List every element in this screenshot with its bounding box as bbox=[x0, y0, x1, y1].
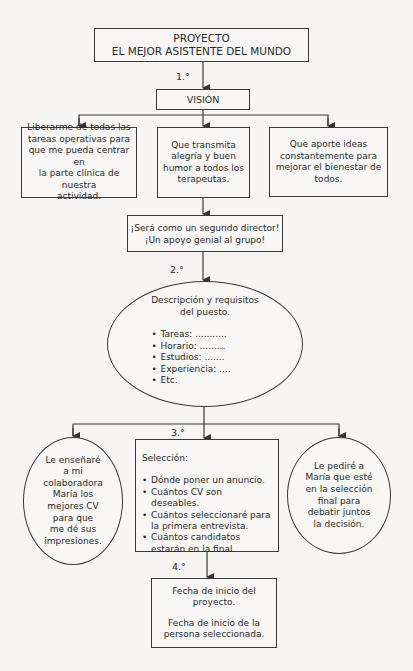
vision-label: VISIÓN bbox=[187, 94, 220, 106]
vision-item-2: Que transmita alegría y buen humor a tod… bbox=[157, 127, 250, 198]
right-circle: Le pediré a María que esté en la selecci… bbox=[287, 437, 391, 554]
requirement-item: Experiencia: .... bbox=[151, 364, 230, 376]
selection-item: Cuántos CV son deseables. bbox=[142, 487, 272, 510]
vision-item-3-text: Que aporte ideas constantemente para mej… bbox=[276, 139, 382, 185]
selection-title: Selección: bbox=[142, 453, 188, 464]
step-1-label: 1.° bbox=[176, 71, 190, 82]
hire-start-date: Fecha de inicio de la persona selecciona… bbox=[164, 618, 265, 641]
selection-box: Selección: Dónde poner un anuncio. Cuánt… bbox=[135, 439, 279, 552]
selection-item: Cuántos seleccionaré para la primera ent… bbox=[142, 510, 272, 533]
vision-item-2-text: Que transmita alegría y buen humor a tod… bbox=[163, 140, 244, 186]
summary-line1: ¡Será como un segundo director! bbox=[131, 222, 280, 234]
step-4-label: 4.° bbox=[172, 561, 186, 572]
step-2-label: 2.° bbox=[170, 264, 184, 275]
left-circle-text: Le enseñaré a mi colaboradora María los … bbox=[43, 455, 102, 548]
selection-item: Cuántos candidatos estarán en la final. bbox=[142, 532, 272, 555]
requirement-item: Estudios: ....... bbox=[151, 352, 230, 364]
selection-list: Dónde poner un anuncio. Cuántos CV son d… bbox=[142, 475, 272, 555]
project-title-line1: PROYECTO bbox=[173, 32, 229, 45]
project-title-line2: EL MEJOR ASISTENTE DEL MUNDO bbox=[112, 45, 291, 58]
vision-box: VISIÓN bbox=[156, 89, 250, 110]
project-start-date: Fecha de inicio del proyecto. bbox=[172, 586, 256, 609]
requirement-item: Horario: ......... bbox=[151, 341, 230, 353]
right-circle-text: Le pediré a María que esté en la selecci… bbox=[306, 461, 373, 531]
project-title-box: PROYECTO EL MEJOR ASISTENTE DEL MUNDO bbox=[94, 28, 309, 62]
summary-box: ¡Será como un segundo director! ¡Un apoy… bbox=[127, 215, 283, 252]
job-requirements-list: Tareas: ........... Horario: ......... E… bbox=[151, 329, 230, 387]
step-3-label: 3.° bbox=[171, 427, 185, 438]
vision-item-3: Que aporte ideas constantemente para mej… bbox=[269, 127, 388, 197]
job-description-ellipse: Descripción y requisitos del puesto. Tar… bbox=[107, 281, 303, 407]
requirement-item: Tareas: ........... bbox=[151, 329, 230, 341]
vision-item-1: Liberarme de todas las tareas operativas… bbox=[21, 127, 137, 198]
vision-item-1-text: Liberarme de todas las tareas operativas… bbox=[22, 122, 136, 203]
requirement-item: Etc. bbox=[151, 375, 230, 387]
start-date-box: Fecha de inicio del proyecto. Fecha de i… bbox=[151, 578, 277, 648]
left-circle: Le enseñaré a mi colaboradora María los … bbox=[23, 437, 123, 565]
summary-line2: ¡Un apoyo genial al grupo! bbox=[145, 234, 265, 246]
job-description-title: Descripción y requisitos del puesto. bbox=[151, 295, 259, 318]
selection-item: Dónde poner un anuncio. bbox=[142, 475, 272, 486]
